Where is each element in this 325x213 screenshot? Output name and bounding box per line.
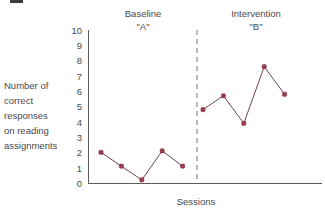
y-tick-4: 4 — [77, 117, 82, 128]
y-tick-3: 3 — [77, 132, 82, 143]
y-tick-8: 8 — [77, 55, 82, 66]
data-point-marker — [119, 164, 123, 168]
phase-a-name: Baseline — [125, 8, 161, 19]
y-tick-0: 0 — [77, 178, 82, 189]
data-series-layer — [99, 65, 287, 182]
data-point-marker — [242, 121, 246, 125]
data-point-marker — [283, 92, 287, 96]
data-point-marker — [262, 65, 266, 69]
data-point-marker — [140, 178, 144, 182]
y-axis-title-line-5: assignments — [4, 140, 58, 151]
phase-a-condition: "A" — [136, 21, 149, 32]
data-point-marker — [160, 149, 164, 153]
y-tick-2: 2 — [77, 147, 82, 158]
y-tick-1: 1 — [77, 163, 82, 174]
y-tick-6: 6 — [77, 86, 82, 97]
y-axis-title-line-3: responses — [4, 110, 48, 121]
series-line-phase-2 — [203, 67, 285, 124]
series-line-phase-1 — [101, 151, 183, 180]
chart-canvas: 10 9 8 7 6 5 4 3 2 1 0 Baseline "A" Inte… — [0, 0, 325, 213]
phase-b-condition: "B" — [249, 21, 262, 32]
y-axis-title-line-1: Number of — [4, 80, 49, 91]
data-point-marker — [181, 164, 185, 168]
single-subject-line-chart: 10 9 8 7 6 5 4 3 2 1 0 Baseline "A" Inte… — [0, 0, 325, 213]
y-tick-7: 7 — [77, 71, 82, 82]
data-point-marker — [201, 108, 205, 112]
phase-b-name: Intervention — [231, 8, 281, 19]
x-axis-title: Sessions — [177, 196, 216, 207]
data-point-marker — [221, 94, 225, 98]
y-axis-title-line-4: on reading — [4, 125, 49, 136]
y-tick-10: 10 — [71, 25, 82, 36]
data-point-marker — [99, 150, 103, 154]
y-tick-9: 9 — [77, 40, 82, 51]
y-axis-title-line-2: correct — [4, 95, 33, 106]
y-tick-5: 5 — [77, 101, 82, 112]
